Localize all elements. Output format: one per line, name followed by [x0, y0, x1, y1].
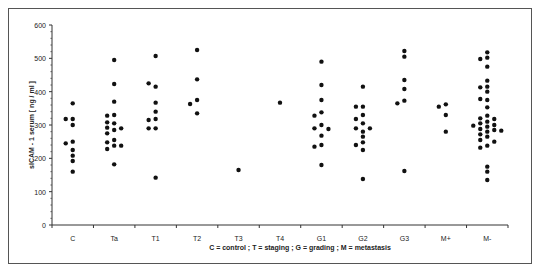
data-point	[188, 102, 192, 106]
y-tick-label: 200	[34, 155, 46, 162]
data-point	[146, 126, 150, 130]
data-point	[485, 55, 489, 59]
data-point	[402, 49, 406, 53]
data-point	[485, 143, 489, 147]
data-point	[478, 132, 482, 136]
data-point	[485, 129, 489, 133]
data-point	[71, 153, 75, 157]
data-point	[485, 78, 489, 82]
data-point	[478, 127, 482, 131]
data-point	[485, 50, 489, 54]
data-point	[112, 162, 116, 166]
data-point	[444, 129, 448, 133]
data-point	[361, 148, 365, 152]
data-point	[485, 169, 489, 173]
data-point	[361, 104, 365, 108]
data-point	[361, 129, 365, 133]
data-point	[361, 140, 365, 144]
y-tick-label: 100	[34, 189, 46, 196]
data-point	[195, 98, 199, 102]
data-point	[485, 98, 489, 102]
data-point	[471, 123, 475, 127]
data-point	[153, 54, 157, 58]
x-tick-label: G2	[358, 235, 367, 242]
data-point	[402, 87, 406, 91]
data-point	[361, 177, 365, 181]
data-point	[485, 124, 489, 128]
data-point	[153, 126, 157, 130]
data-point	[71, 117, 75, 121]
data-point	[485, 119, 489, 123]
x-tick-label: T3	[234, 235, 242, 242]
data-point	[64, 141, 68, 145]
data-point	[319, 98, 323, 102]
data-point	[119, 143, 123, 147]
data-point	[444, 113, 448, 117]
x-tick-label: G3	[400, 235, 409, 242]
data-point	[236, 168, 240, 172]
data-point	[153, 109, 157, 113]
data-point	[402, 54, 406, 58]
y-tick-label: 300	[34, 122, 46, 129]
y-tick-label: 400	[34, 89, 46, 96]
data-point	[326, 127, 330, 131]
x-tick-label: G1	[317, 235, 326, 242]
data-point	[105, 131, 109, 135]
data-point	[153, 117, 157, 121]
data-point	[319, 59, 323, 63]
data-point	[402, 169, 406, 173]
data-point	[105, 113, 109, 117]
data-point	[395, 101, 399, 105]
data-point	[112, 143, 116, 147]
x-tick-label: M-	[483, 235, 492, 242]
y-tick-label: 0	[42, 222, 46, 229]
data-point	[485, 105, 489, 109]
data-point	[402, 78, 406, 82]
data-point	[485, 164, 489, 168]
x-tick-label: C	[70, 235, 75, 242]
data-point	[492, 128, 496, 132]
data-point	[354, 143, 358, 147]
data-point	[478, 138, 482, 142]
data-point	[368, 126, 372, 130]
data-point	[319, 110, 323, 114]
data-point	[105, 147, 109, 151]
data-point	[444, 102, 448, 106]
data-point	[478, 116, 482, 120]
x-tick-label: T1	[152, 235, 160, 242]
data-point	[105, 140, 109, 144]
data-point	[112, 99, 116, 103]
data-point	[105, 125, 109, 129]
data-point	[153, 175, 157, 179]
data-point	[319, 123, 323, 127]
data-point	[119, 126, 123, 130]
data-point	[112, 58, 116, 62]
data-point	[195, 77, 199, 81]
data-point	[319, 163, 323, 167]
data-point	[485, 113, 489, 117]
x-tick-label: T2	[193, 235, 201, 242]
data-point	[146, 118, 150, 122]
data-point	[361, 134, 365, 138]
data-point	[153, 84, 157, 88]
data-point	[485, 89, 489, 93]
data-point	[478, 121, 482, 125]
y-axis-label: sICAM - 1 serum [ ng / ml ]	[28, 81, 36, 169]
data-point	[354, 104, 358, 108]
data-point	[195, 111, 199, 115]
scatter-chart: 0100200300400500600CTaT1T2T3T4G1G2G3M+M-…	[0, 0, 535, 273]
data-point	[319, 143, 323, 147]
data-point	[71, 169, 75, 173]
data-point	[492, 123, 496, 127]
data-point	[278, 100, 282, 104]
data-point	[354, 117, 358, 121]
data-point	[312, 144, 316, 148]
data-point	[312, 113, 316, 117]
data-point	[112, 82, 116, 86]
data-point	[361, 84, 365, 88]
data-point	[361, 113, 365, 117]
data-point	[485, 178, 489, 182]
data-point	[485, 134, 489, 138]
data-point	[478, 85, 482, 89]
data-point	[492, 117, 496, 121]
